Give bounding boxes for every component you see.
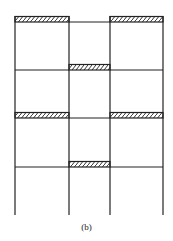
frame-diagram bbox=[0, 0, 173, 241]
hatched-beam-level-1-bay-3 bbox=[110, 17, 163, 23]
hatched-beam-level-3-bay-3 bbox=[110, 113, 163, 119]
hatched-beam-level-4-bay-2 bbox=[69, 162, 110, 168]
hatched-beam-level-2-bay-2 bbox=[69, 65, 110, 71]
hatched-beam-level-3-bay-1 bbox=[15, 113, 69, 119]
figure-caption: (b) bbox=[0, 222, 173, 232]
hatched-beam-level-1-bay-1 bbox=[15, 17, 69, 23]
